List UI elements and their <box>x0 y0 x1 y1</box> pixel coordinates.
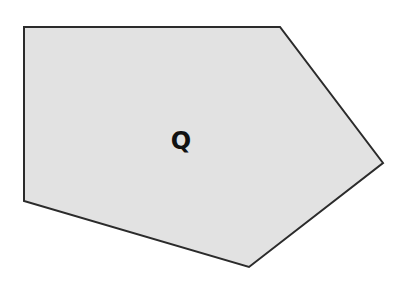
shape-label: Q <box>171 127 191 155</box>
diagram-canvas: Q <box>0 0 413 290</box>
pentagon-q <box>24 27 383 267</box>
